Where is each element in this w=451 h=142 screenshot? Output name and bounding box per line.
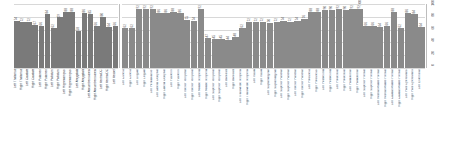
bar[interactable] <box>274 22 280 68</box>
bar[interactable] <box>349 9 355 68</box>
bar[interactable] <box>301 19 307 68</box>
bar[interactable] <box>14 21 20 68</box>
bar[interactable] <box>20 22 26 68</box>
bar[interactable] <box>363 26 369 68</box>
x-axis-label: Right Hippocampus <box>69 69 75 131</box>
bar-value-label: 86 <box>406 9 409 12</box>
x-axis-label: Right Cuneus <box>129 69 135 131</box>
bar[interactable] <box>253 22 259 68</box>
bar-column: 66 <box>370 4 376 68</box>
bar[interactable] <box>143 9 149 68</box>
bar[interactable] <box>418 27 424 68</box>
bar-value-label: 62 <box>52 24 55 27</box>
x-axis-label: Left Thalamus <box>14 69 20 131</box>
bar-column: 85 <box>88 4 94 68</box>
bar[interactable] <box>239 28 245 68</box>
bar[interactable] <box>377 27 383 68</box>
bar[interactable] <box>69 12 75 68</box>
bar[interactable] <box>356 9 362 68</box>
bar[interactable] <box>315 12 321 68</box>
bar[interactable] <box>246 22 252 68</box>
y-tick-label: 80 <box>431 13 435 17</box>
bar[interactable] <box>287 22 293 68</box>
bar[interactable] <box>184 20 190 68</box>
bar[interactable] <box>156 13 162 68</box>
x-axis-label: Right Fusiform <box>177 69 183 131</box>
bar-column: 67 <box>32 4 38 68</box>
x-axis-label: Right VentralDC <box>106 69 112 131</box>
bar[interactable] <box>398 28 404 68</box>
bar-value-label: 72 <box>255 18 258 21</box>
x-axis-label: Left Lateral Occipital <box>156 69 162 131</box>
bar[interactable] <box>129 28 135 68</box>
bar-value-label: 85 <box>89 10 92 13</box>
y-axis-line-left <box>119 4 120 68</box>
bar-value-label: 72 <box>248 18 251 21</box>
bar-column: 45 <box>212 4 218 68</box>
x-axis-label: Left Cuneus <box>122 69 128 131</box>
x-axis-labels-right: Left CuneusRight CuneusLeft LingualRight… <box>122 69 425 131</box>
bar[interactable] <box>336 9 342 68</box>
bar[interactable] <box>322 10 328 68</box>
bar[interactable] <box>51 28 57 68</box>
bar-value-label: 66 <box>365 22 368 25</box>
bar-column: 88 <box>315 4 321 68</box>
bar[interactable] <box>218 39 224 68</box>
bar[interactable] <box>308 12 314 68</box>
bar[interactable] <box>411 14 417 68</box>
y-tick-label: 40 <box>431 38 435 42</box>
bar[interactable] <box>212 39 218 68</box>
y-tick-label: 20 <box>431 51 435 55</box>
bar[interactable] <box>225 40 231 68</box>
bar[interactable] <box>177 13 183 68</box>
bar-column: 72 <box>274 4 280 68</box>
bar-value-label: 62 <box>399 24 402 27</box>
chart-root: 7472726766846279888858868566806466 Left … <box>0 0 451 142</box>
bar[interactable] <box>280 21 286 68</box>
bar-value-label: 92 <box>199 5 202 8</box>
bar[interactable] <box>163 13 169 68</box>
bar[interactable] <box>329 10 335 68</box>
bar[interactable] <box>88 14 94 68</box>
bar[interactable] <box>136 9 142 68</box>
bar-column: 88 <box>63 4 69 68</box>
bar-column: 72 <box>260 4 266 68</box>
x-axis-label: Left Pars Opercularis <box>405 69 411 131</box>
bar-value-label: 64 <box>108 23 111 26</box>
x-axis-label: Right Pars Opercularis <box>411 69 417 131</box>
bar[interactable] <box>370 26 376 68</box>
bar-value-label: 72 <box>21 18 24 21</box>
bar-column: 90 <box>322 4 328 68</box>
bar[interactable] <box>94 26 100 68</box>
bar[interactable] <box>260 22 266 68</box>
bar[interactable] <box>100 17 106 68</box>
bar[interactable] <box>294 21 300 68</box>
bar[interactable] <box>76 31 82 68</box>
bar[interactable] <box>106 27 112 68</box>
bar[interactable] <box>205 38 211 68</box>
bar[interactable] <box>32 25 38 68</box>
bar[interactable] <box>39 26 45 68</box>
bar[interactable] <box>113 26 119 68</box>
x-axis-label: Left Postcentral <box>322 69 328 131</box>
bar[interactable] <box>170 12 176 68</box>
bar[interactable] <box>82 13 88 68</box>
bar[interactable] <box>150 9 156 68</box>
bar[interactable] <box>384 26 390 68</box>
bar-column: 86 <box>156 4 162 68</box>
bar[interactable] <box>63 12 69 68</box>
bar[interactable] <box>122 28 128 68</box>
bar-column: 74 <box>14 4 20 68</box>
bar[interactable] <box>57 17 63 68</box>
bar[interactable] <box>191 21 197 68</box>
bar-value-label: 92 <box>358 5 361 8</box>
bar[interactable] <box>45 14 51 68</box>
bar[interactable] <box>391 12 397 68</box>
bar[interactable] <box>26 22 32 68</box>
bar[interactable] <box>405 13 411 68</box>
bar-column: 79 <box>57 4 63 68</box>
bar[interactable] <box>267 23 273 68</box>
bar[interactable] <box>232 37 238 68</box>
bar[interactable] <box>198 9 204 68</box>
bar[interactable] <box>343 10 349 68</box>
